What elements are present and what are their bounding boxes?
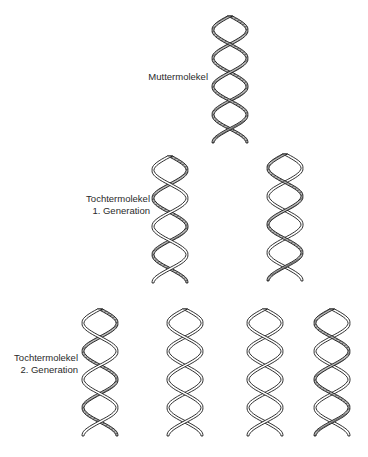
- gen2-label-line2: 2. Generation: [0, 364, 78, 376]
- gen2-label: Tochtermolekel 2. Generation: [0, 352, 78, 376]
- dna-molecule-gen2-3: [245, 305, 285, 440]
- mother-molecule-label: Muttermolekel: [120, 71, 208, 83]
- dna-molecule-gen1-left: [150, 152, 190, 287]
- dna-molecule-gen1-right: [265, 150, 305, 285]
- dna-molecule-gen2-1: [80, 305, 120, 440]
- gen1-label-line1: Tochtermolekel: [70, 193, 150, 205]
- dna-molecule-gen2-2: [165, 305, 205, 440]
- dna-molecule-gen2-4: [312, 305, 352, 440]
- gen1-label-line2: 1. Generation: [70, 205, 150, 217]
- gen2-label-line1: Tochtermolekel: [0, 352, 78, 364]
- gen1-label: Tochtermolekel 1. Generation: [70, 193, 150, 217]
- dna-molecule-mother: [210, 12, 250, 147]
